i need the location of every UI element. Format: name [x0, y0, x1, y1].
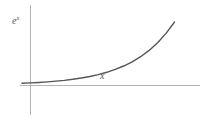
exponential-function-figure: ex x: [0, 0, 215, 121]
y-axis-label-exponent: x: [16, 14, 19, 21]
plot-canvas: [0, 0, 215, 121]
exponential-curve: [22, 22, 175, 83]
x-axis-label: x: [100, 71, 104, 81]
y-axis-label: ex: [12, 15, 19, 26]
